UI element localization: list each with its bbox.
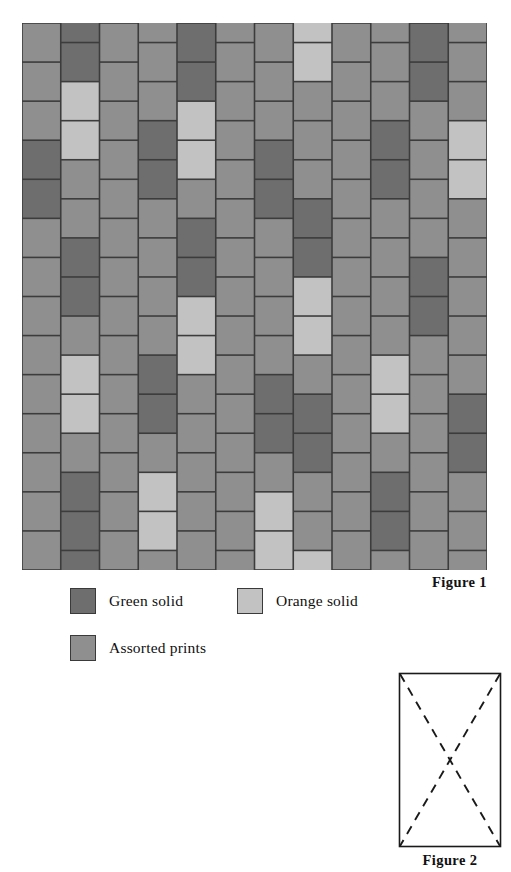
- quilt-patch: [410, 375, 447, 412]
- quilt-patch: [372, 512, 409, 549]
- quilt-patch: [333, 24, 370, 61]
- quilt-patch: [410, 219, 447, 256]
- quilt-patch: [23, 493, 60, 530]
- quilt-patch: [178, 336, 215, 373]
- quilt-patch: [23, 336, 60, 373]
- quilt-patch: [449, 317, 486, 354]
- quilt-patch: [62, 317, 99, 354]
- quilt-patch: [100, 63, 137, 100]
- quilt-patch: [449, 121, 486, 158]
- legend-row-1: Green solid Orange solid: [0, 588, 511, 635]
- figure2-caption: Figure 2: [398, 852, 502, 869]
- quilt-patch: [333, 336, 370, 373]
- quilt-patch: [372, 82, 409, 119]
- quilt-patch: [62, 43, 99, 80]
- quilt-patch: [139, 278, 176, 315]
- quilt-patch: [255, 375, 292, 412]
- quilt-patch: [372, 200, 409, 237]
- quilt-patch: [294, 23, 331, 42]
- quilt-patch: [217, 239, 254, 276]
- quilt-patch: [372, 434, 409, 471]
- quilt-patch: [139, 200, 176, 237]
- legend-label-orange-solid: Orange solid: [276, 592, 358, 610]
- quilt-patch: [23, 24, 60, 61]
- quilt-patch: [294, 395, 331, 432]
- quilt-patch: [178, 297, 215, 334]
- quilt-patch: [217, 395, 254, 432]
- quilt-patch: [100, 454, 137, 491]
- quilt-patch: [255, 63, 292, 100]
- quilt-patch: [100, 102, 137, 139]
- quilt-patch: [294, 512, 331, 549]
- legend-swatch-green-solid: [70, 588, 96, 614]
- quilt-patch: [217, 512, 254, 549]
- quilt-patch: [410, 24, 447, 61]
- quilt-patch: [449, 434, 486, 471]
- quilt-patch: [372, 551, 409, 570]
- quilt-patch: [294, 434, 331, 471]
- quilt-patch: [333, 532, 370, 569]
- quilt-patch: [294, 43, 331, 80]
- quilt-patch: [100, 24, 137, 61]
- quilt-patch: [62, 551, 99, 570]
- quilt-patch: [372, 473, 409, 510]
- quilt-patch: [139, 82, 176, 119]
- quilt-patch: [139, 121, 176, 158]
- quilt-patch: [62, 23, 99, 42]
- quilt-patch: [100, 336, 137, 373]
- figure2-canvas: [398, 672, 502, 848]
- legend-label-assorted-prints: Assorted prints: [109, 639, 206, 657]
- quilt-patch: [178, 493, 215, 530]
- quilt-patch: [255, 219, 292, 256]
- quilt-patch: [294, 473, 331, 510]
- quilt-patch: [23, 180, 60, 217]
- quilt-patch: [178, 258, 215, 295]
- quilt-patch: [178, 454, 215, 491]
- quilt-patch: [139, 23, 176, 42]
- legend-swatch-assorted-prints: [70, 635, 96, 661]
- quilt-patch: [294, 82, 331, 119]
- quilt-patch: [449, 43, 486, 80]
- quilt-patch: [217, 82, 254, 119]
- quilt-patch: [372, 278, 409, 315]
- quilt-patch: [178, 375, 215, 412]
- quilt-patch: [100, 141, 137, 178]
- legend-entry-green-solid: Green solid: [70, 588, 183, 614]
- quilt-patch: [255, 454, 292, 491]
- quilt-patch: [217, 356, 254, 393]
- quilt-patch: [100, 375, 137, 412]
- quilt-patch: [294, 278, 331, 315]
- quilt-patch: [217, 473, 254, 510]
- quilt-patch: [255, 180, 292, 217]
- quilt-patch: [23, 532, 60, 569]
- quilt-patch: [100, 493, 137, 530]
- quilt-patch: [333, 297, 370, 334]
- quilt-patch: [294, 551, 331, 570]
- quilt-patch: [255, 258, 292, 295]
- legend-entry-assorted-prints: Assorted prints: [70, 635, 206, 661]
- quilt-patch: [62, 278, 99, 315]
- quilt-patch: [178, 180, 215, 217]
- legend-entry-orange-solid: Orange solid: [237, 588, 358, 614]
- quilt-patch: [410, 493, 447, 530]
- quilt-patch: [217, 434, 254, 471]
- quilt-patch: [449, 239, 486, 276]
- quilt-figure: [22, 23, 487, 570]
- quilt-patch: [333, 141, 370, 178]
- quilt-patch: [178, 532, 215, 569]
- quilt-patch: [62, 161, 99, 198]
- quilt-patch: [372, 23, 409, 42]
- quilt-patch: [100, 180, 137, 217]
- quilt-patch: [139, 356, 176, 393]
- quilt-patch: [139, 434, 176, 471]
- quilt-patch: [139, 43, 176, 80]
- quilt-patch: [449, 161, 486, 198]
- quilt-patch: [449, 473, 486, 510]
- quilt-patch: [23, 219, 60, 256]
- quilt-patch: [294, 356, 331, 393]
- quilt-patch: [23, 141, 60, 178]
- quilt-patch: [23, 63, 60, 100]
- quilt-patch: [217, 200, 254, 237]
- quilt-patch: [410, 141, 447, 178]
- quilt-patch: [372, 317, 409, 354]
